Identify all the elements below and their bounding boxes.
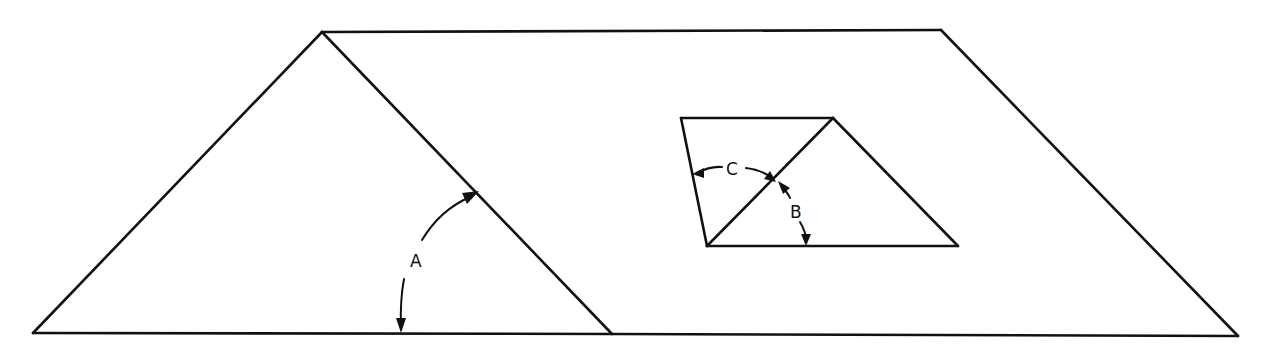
- angle-b-arrow-down-icon: [801, 234, 811, 246]
- angle-c-label: C: [726, 159, 738, 179]
- inset-diagonal: [707, 118, 833, 246]
- angle-a-label: A: [410, 251, 422, 271]
- angle-a-arrow-down-icon: [396, 318, 406, 333]
- inset-left-edge: [681, 118, 707, 246]
- angle-a-arc-upper: [422, 197, 470, 240]
- gable-left-edge: [33, 32, 322, 333]
- roof-angle-diagram: A C B: [0, 0, 1265, 353]
- eave-line: [33, 333, 1238, 336]
- angle-a-arrow-up-icon: [462, 191, 479, 204]
- angle-b-label: B: [790, 202, 802, 222]
- gable-right-edge: [322, 32, 612, 334]
- angle-b-arrow-up-icon: [778, 181, 790, 194]
- ridge-line: [322, 30, 941, 32]
- inset-right-edge: [833, 118, 958, 246]
- roof-right-edge: [941, 30, 1238, 336]
